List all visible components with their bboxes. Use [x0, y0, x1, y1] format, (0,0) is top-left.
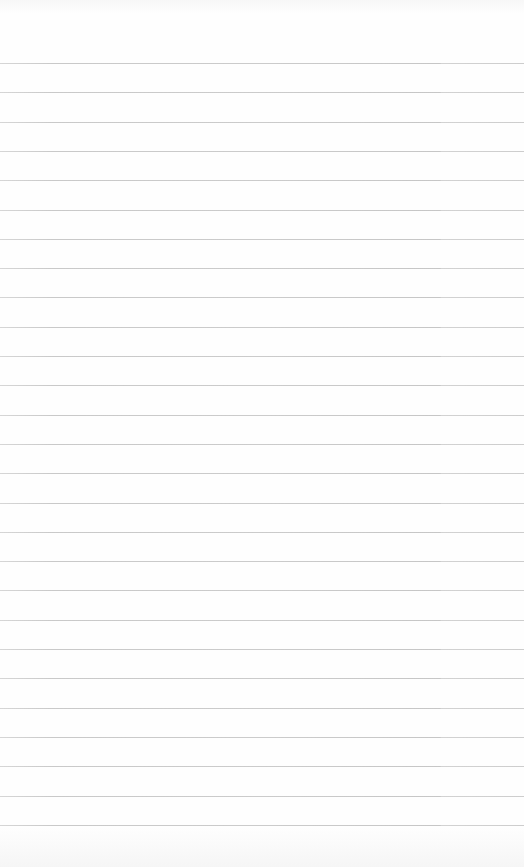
ruled-line — [0, 737, 524, 738]
ruled-paper-background — [0, 0, 524, 867]
ruled-line — [0, 766, 524, 767]
ruled-line — [0, 151, 524, 152]
ruled-line — [0, 503, 524, 504]
ruled-line — [0, 415, 524, 416]
ruled-line — [0, 825, 524, 826]
ruled-line — [0, 268, 524, 269]
ruled-line — [0, 63, 524, 64]
ruled-line — [0, 708, 524, 709]
ruled-line — [0, 678, 524, 679]
ruled-line — [0, 561, 524, 562]
ruled-line — [0, 590, 524, 591]
ruled-line — [0, 444, 524, 445]
ruled-line — [0, 297, 524, 298]
ruled-line — [0, 122, 524, 123]
faded-header-area — [0, 0, 524, 14]
ruled-line — [0, 356, 524, 357]
ruled-line — [0, 385, 524, 386]
ruled-line — [0, 796, 524, 797]
ruled-line — [0, 649, 524, 650]
ruled-line — [0, 532, 524, 533]
ruled-line — [0, 180, 524, 181]
ruled-line — [0, 327, 524, 328]
ruled-line — [0, 239, 524, 240]
ruled-line — [0, 473, 524, 474]
ruled-line — [0, 92, 524, 93]
ruled-line — [0, 210, 524, 211]
ruled-line — [0, 620, 524, 621]
